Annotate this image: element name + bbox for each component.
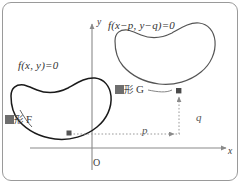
origin-label-text: O: [93, 157, 100, 168]
y-axis-label: y: [97, 18, 101, 28]
axis-group: [30, 24, 226, 170]
shape-label-g-kana: 形: [124, 84, 134, 95]
curve-figure-f: [11, 78, 111, 140]
translation-label-p-text: p: [142, 124, 148, 136]
translation-label-p: p: [142, 125, 148, 136]
origin-label: O: [93, 158, 100, 168]
x-axis-label: x: [228, 147, 232, 157]
shape-label-f: 形F: [5, 114, 32, 125]
shape-label-f-kana: 形: [14, 114, 24, 125]
shape-label-f-tag: F: [26, 113, 32, 125]
cjk-block-glyph-g: [115, 85, 124, 94]
cjk-block-glyph-f: [5, 115, 14, 124]
shape-label-g: 形G: [115, 84, 144, 95]
equation-original-text: f(x, y)=0: [18, 59, 58, 71]
y-axis-label-text: y: [97, 17, 101, 27]
equation-label-original: f(x, y)=0: [18, 60, 58, 71]
shape-label-g-tag: G: [136, 83, 144, 95]
x-axis-label-text: x: [228, 146, 232, 156]
leader-line-g: [148, 90, 172, 92]
curve-figure-g: [115, 23, 215, 85]
equation-label-translated: f(x−p, y−q)=0: [108, 20, 175, 31]
translation-label-q: q: [196, 112, 202, 123]
figure-container: f(x, y)=0 f(x−p, y−q)=0 形F 形G y x O p q: [0, 0, 243, 186]
marker-point-on-f: [67, 131, 72, 136]
equation-translated-text: f(x−p, y−q)=0: [108, 19, 175, 31]
marker-point-on-g: [176, 88, 181, 93]
translation-label-q-text: q: [196, 111, 202, 123]
